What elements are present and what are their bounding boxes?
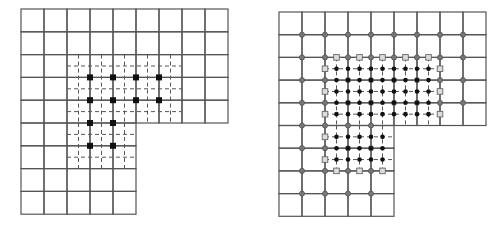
fine-node-dot <box>369 89 374 94</box>
interface-node-square <box>380 168 386 174</box>
grid-cell <box>394 35 417 58</box>
interface-node-square <box>437 66 443 72</box>
grid-cell <box>302 194 325 217</box>
fine-node-dot <box>334 135 339 140</box>
fine-mesh <box>67 55 182 169</box>
grid-cell <box>348 12 371 35</box>
grid-cell <box>463 57 486 80</box>
coarse-node-square <box>133 97 139 103</box>
coarse-node-circle <box>345 55 350 60</box>
coarse-node-circle <box>437 55 442 60</box>
fine-node-dot <box>426 112 431 117</box>
coarse-node-circle <box>322 123 327 128</box>
grid-cell <box>44 100 67 123</box>
coarse-node-circle <box>368 191 373 196</box>
grid-cell <box>325 35 348 58</box>
coarse-node-circle <box>299 78 304 83</box>
coarse-node-square <box>133 74 139 80</box>
grid-cell <box>325 194 348 217</box>
coarse-node-circle <box>345 191 350 196</box>
coarse-node-circle <box>437 32 442 37</box>
coarse-node-circle <box>299 32 304 37</box>
coarse-node-square <box>110 74 116 80</box>
fine-node-dot <box>403 66 408 71</box>
grid-cell <box>302 57 325 80</box>
grid-cell <box>21 146 44 169</box>
grid-cell <box>302 35 325 58</box>
interface-node-square <box>426 55 432 61</box>
fine-node-dot <box>380 146 385 151</box>
coarse-node-circle <box>368 168 373 173</box>
coarse-node-circle <box>391 55 396 60</box>
coarse-node-circle <box>368 55 373 60</box>
fine-node-dot <box>369 112 374 117</box>
grid-cell <box>67 169 90 192</box>
grid-cell <box>136 32 159 55</box>
coarse-node-circle <box>368 123 373 128</box>
grid-cell <box>182 55 205 78</box>
interface-node-square <box>322 66 328 72</box>
grid-cell <box>371 171 394 194</box>
coarse-node-circle <box>322 146 327 151</box>
fine-node-dot <box>415 89 420 94</box>
left-grid-figure <box>21 9 228 214</box>
fine-node-dot <box>380 89 385 94</box>
grid-cell <box>44 55 67 78</box>
interface-node-square <box>334 55 340 61</box>
grid-cell <box>205 55 228 78</box>
grid-cell <box>182 9 205 32</box>
fine-node-dot <box>346 112 351 117</box>
grid-cell <box>205 32 228 55</box>
grid-cell <box>463 80 486 103</box>
grid-cell <box>136 9 159 32</box>
interface-node-square <box>357 55 363 61</box>
fine-node-dot <box>334 157 339 162</box>
grid-cell <box>279 194 302 217</box>
coarse-node-square <box>87 143 93 149</box>
fine-node-dot <box>369 101 374 106</box>
fine-node-dot <box>426 89 431 94</box>
coarse-node-square <box>110 120 116 126</box>
grid-cell <box>113 191 136 214</box>
fine-node-dot <box>346 135 351 140</box>
grid-cell <box>440 35 463 58</box>
coarse-node-circle <box>460 32 465 37</box>
grid-cell <box>348 35 371 58</box>
fine-node-dot <box>392 89 397 94</box>
grid-cell <box>182 77 205 100</box>
fine-node-dot <box>346 146 351 151</box>
grid-cell <box>279 57 302 80</box>
grid-cell <box>21 55 44 78</box>
fine-node-dot <box>426 78 431 83</box>
fine-node-dot <box>369 78 374 83</box>
coarse-node-circle <box>299 191 304 196</box>
grid-cell <box>279 103 302 126</box>
grid-cell <box>463 35 486 58</box>
grid-cell <box>371 12 394 35</box>
grid-cell <box>44 9 67 32</box>
grid-cell <box>348 171 371 194</box>
fine-node-dot <box>426 66 431 71</box>
coarse-node-circle <box>414 55 419 60</box>
fine-node-dot <box>380 78 385 83</box>
grid-cell <box>67 191 90 214</box>
coarse-node-circle <box>345 32 350 37</box>
fine-node-dot <box>403 78 408 83</box>
fine-node-dot <box>403 101 408 106</box>
coarse-node-circle <box>437 100 442 105</box>
grid-cell <box>21 32 44 55</box>
coarse-node-circle <box>437 78 442 83</box>
interface-node-square <box>322 134 328 140</box>
coarse-node-circle <box>322 168 327 173</box>
grid-cell <box>440 103 463 126</box>
coarse-node-circle <box>345 168 350 173</box>
grid-cell <box>21 9 44 32</box>
grid-cell <box>279 148 302 171</box>
grid-cell <box>113 169 136 192</box>
coarse-node-circle <box>299 55 304 60</box>
grid-cell <box>463 12 486 35</box>
grid-cell <box>417 12 440 35</box>
grid-cell <box>44 191 67 214</box>
grid-cell <box>205 100 228 123</box>
fine-node-dot <box>380 101 385 106</box>
